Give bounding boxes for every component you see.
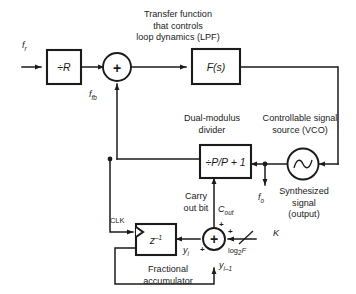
block-accumulator-adder xyxy=(203,228,225,250)
block-reference-divider xyxy=(47,50,81,84)
block-loop-filter xyxy=(192,49,240,84)
block-phase-detector xyxy=(103,53,131,81)
junction-dot-output xyxy=(263,162,268,167)
wire-filter-to-vco-corner xyxy=(240,67,338,164)
pll-block-diagram: fr ÷R + ffb Transfer function that contr… xyxy=(0,0,356,294)
block-dual-modulus-divider xyxy=(200,145,251,178)
diagram-canvas xyxy=(0,0,356,294)
bus-slash-icon xyxy=(239,231,253,244)
wire-clk-to-delay xyxy=(110,159,133,232)
junction-dot-clk xyxy=(108,157,113,162)
block-delay-element xyxy=(136,224,176,255)
